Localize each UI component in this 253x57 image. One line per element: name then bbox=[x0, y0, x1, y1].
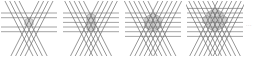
panel-2-diagonal-lines-negative bbox=[65, 1, 112, 56]
panel-1-diagonal-lines-positive bbox=[11, 1, 53, 56]
arrangement-panel-3 bbox=[124, 0, 182, 57]
panel-4-shaded-cells bbox=[203, 8, 228, 31]
panel-2-canvas bbox=[62, 0, 120, 57]
arrangement-panel-4 bbox=[186, 0, 244, 57]
panel-1-diagonal-lines-negative bbox=[5, 1, 47, 56]
panel-3-canvas bbox=[124, 0, 182, 57]
arrangement-panel-2 bbox=[62, 0, 120, 57]
panel-4-canvas bbox=[186, 0, 244, 57]
panel-2-diagonal-lines-positive bbox=[71, 1, 118, 56]
arrangement-panel-1 bbox=[0, 0, 58, 57]
continuation-ellipsis: ... bbox=[246, 22, 252, 27]
panel-1-canvas bbox=[0, 0, 58, 57]
figure-strip: ... bbox=[0, 0, 253, 57]
